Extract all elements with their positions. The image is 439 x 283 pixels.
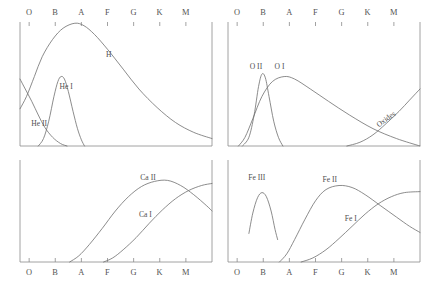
axis-tick-label-a: A bbox=[78, 268, 84, 277]
panel-frame bbox=[228, 22, 420, 146]
curve-label-ca-ii: Ca II bbox=[140, 173, 156, 182]
curve-label-he-i: He I bbox=[60, 82, 74, 91]
axis-tick-label-o: O bbox=[26, 268, 32, 277]
curve-label-he-ii: He II bbox=[31, 119, 47, 128]
axis-tick-label-o: O bbox=[234, 8, 240, 17]
curve-label-fe-i: Fe I bbox=[345, 214, 357, 223]
axis-tick-label-o: O bbox=[26, 8, 32, 17]
panel-top-right: OBAFGKMO IIO IOxides bbox=[220, 2, 428, 150]
axis-tick-label-b: B bbox=[52, 268, 58, 277]
panel-top-left: OBAFGKMHHe IHe II bbox=[12, 2, 220, 150]
axis-tick-label-o: O bbox=[234, 268, 240, 277]
axis-tick-label-g: G bbox=[338, 8, 344, 17]
curve-label-fe-ii: Fe II bbox=[323, 175, 338, 184]
panel-bottom-left: OBAFGKMCa IICa I bbox=[12, 156, 220, 280]
curve-fe-i bbox=[301, 192, 420, 262]
curve-fe-iii bbox=[249, 193, 278, 240]
axis-tick-label-f: F bbox=[313, 8, 318, 17]
panel-bottom-right: OBAFGKMFe IIIFe IIFe I bbox=[220, 156, 428, 280]
axis-tick-label-b: B bbox=[260, 8, 266, 17]
curve-label-o-ii: O II bbox=[250, 62, 263, 71]
panel-frame bbox=[20, 160, 212, 262]
curve-label-fe-iii: Fe III bbox=[248, 173, 266, 182]
axis-tick-label-f: F bbox=[105, 8, 110, 17]
curve-o-ii bbox=[242, 74, 282, 146]
axis-tick-label-m: M bbox=[390, 8, 398, 17]
axis-tick-label-b: B bbox=[52, 8, 58, 17]
axis-tick-label-m: M bbox=[390, 268, 398, 277]
axis-tick-label-a: A bbox=[286, 268, 292, 277]
axis-tick-label-k: K bbox=[365, 8, 371, 17]
curve-label-o-i: O I bbox=[275, 62, 285, 71]
axis-tick-label-m: M bbox=[182, 8, 190, 17]
axis-tick-label-k: K bbox=[157, 268, 163, 277]
axis-tick-label-g: G bbox=[338, 268, 344, 277]
axis-tick-label-g: G bbox=[130, 8, 136, 17]
curve-fe-ii bbox=[279, 185, 420, 262]
curve-label-h: H bbox=[106, 50, 112, 59]
axis-tick-label-m: M bbox=[182, 268, 190, 277]
axis-tick-label-k: K bbox=[365, 268, 371, 277]
axis-tick-label-g: G bbox=[130, 268, 136, 277]
axis-tick-label-f: F bbox=[105, 268, 110, 277]
axis-tick-label-f: F bbox=[313, 268, 318, 277]
axis-tick-label-b: B bbox=[260, 268, 266, 277]
curve-ca-ii bbox=[70, 180, 212, 262]
curve-label-ca-i: Ca I bbox=[139, 210, 152, 219]
curve-label-oxides: Oxides bbox=[375, 109, 398, 129]
curve-ca-i bbox=[104, 183, 212, 262]
axis-tick-label-a: A bbox=[78, 8, 84, 17]
spectral-line-strength-figure: OBAFGKMHHe IHe IIOBAFGKMO IIO IOxidesOBA… bbox=[0, 0, 439, 283]
axis-tick-label-k: K bbox=[157, 8, 163, 17]
axis-tick-label-a: A bbox=[286, 8, 292, 17]
